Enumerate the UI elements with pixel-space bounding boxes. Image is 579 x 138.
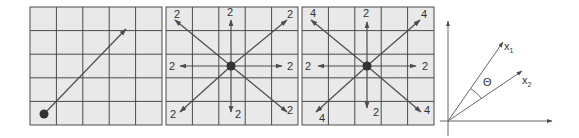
label-up-right: 2 (287, 8, 293, 20)
vector-x1-arrow-icon (448, 42, 503, 121)
label-up: 2 (363, 7, 369, 19)
label-down-right: 4 (424, 104, 430, 116)
x1-label: x1 (504, 40, 514, 54)
center-dot (363, 62, 372, 71)
x2-label: x2 (522, 74, 532, 88)
diagram-canvas: 2 2 2 2 2 2 2 2 4 2 4 (0, 0, 579, 138)
label-up-left: 4 (310, 7, 316, 19)
label-up-right: 4 (421, 8, 427, 20)
label-left: 2 (169, 60, 175, 72)
axes-diagram (440, 21, 552, 136)
theta-label: Θ (483, 76, 492, 88)
label-right: 2 (422, 60, 428, 72)
label-left: 2 (305, 60, 311, 72)
label-down: 2 (235, 108, 241, 120)
label-down-left: 4 (319, 112, 325, 124)
label-up-left: 2 (174, 8, 180, 20)
label-down-left: 2 (170, 108, 176, 120)
angle-arc (471, 89, 482, 99)
label-right: 2 (287, 60, 293, 72)
label-up: 2 (227, 6, 233, 18)
label-down: 2 (373, 106, 379, 118)
center-dot (227, 62, 236, 71)
origin-dot (40, 110, 49, 119)
label-down-right: 2 (287, 104, 293, 116)
